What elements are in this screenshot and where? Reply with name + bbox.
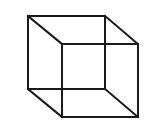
cube-edge-back-top-left-to-front-top-left xyxy=(28,16,62,44)
cube-edge-back-bottom-left-to-front-bottom-left xyxy=(28,89,62,117)
necker-cube-canvas xyxy=(0,0,145,129)
cube-edge-back-bottom-right-to-front-bottom-right xyxy=(105,89,138,117)
cube-edge-back-top-right-to-front-top-right xyxy=(105,16,138,44)
necker-cube-drawing xyxy=(0,0,145,129)
